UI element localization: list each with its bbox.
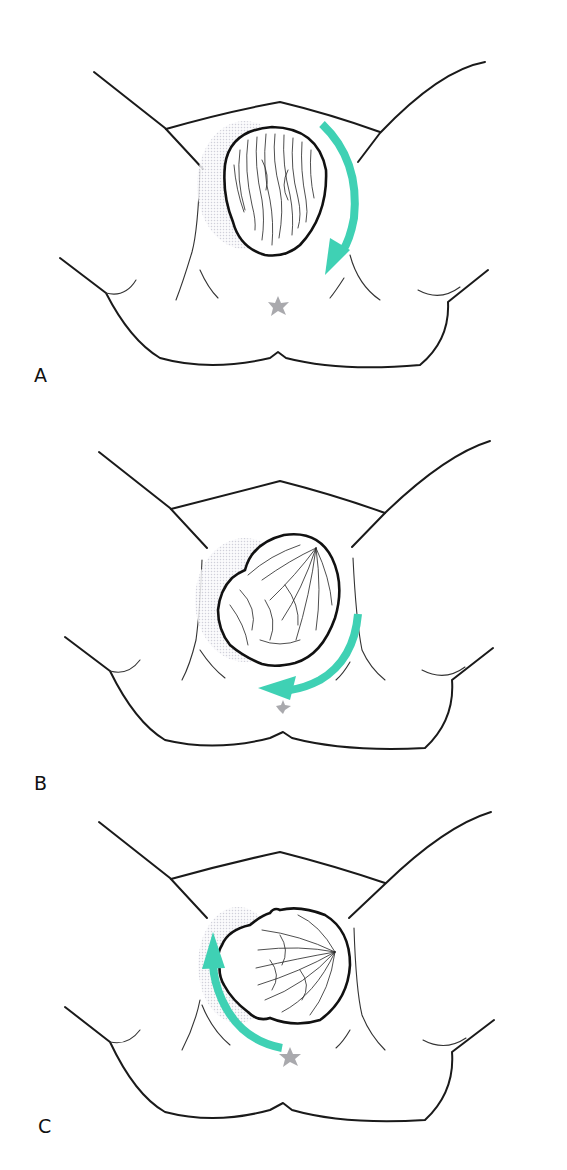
fetal-head [224, 127, 326, 256]
panel-c: C [38, 812, 494, 1137]
panel-b: B [34, 441, 493, 794]
landmark-star-icon [276, 700, 291, 714]
panel-label-b: B [34, 772, 47, 794]
panel-label-a: A [34, 364, 47, 386]
landmark-star-icon [268, 296, 289, 316]
rotation-arrow-icon [322, 124, 355, 275]
delivery-rotation-figure: A [0, 0, 567, 1170]
landmark-star-icon [279, 1047, 301, 1067]
panel-a: A [34, 62, 488, 386]
panel-label-c: C [38, 1115, 51, 1137]
